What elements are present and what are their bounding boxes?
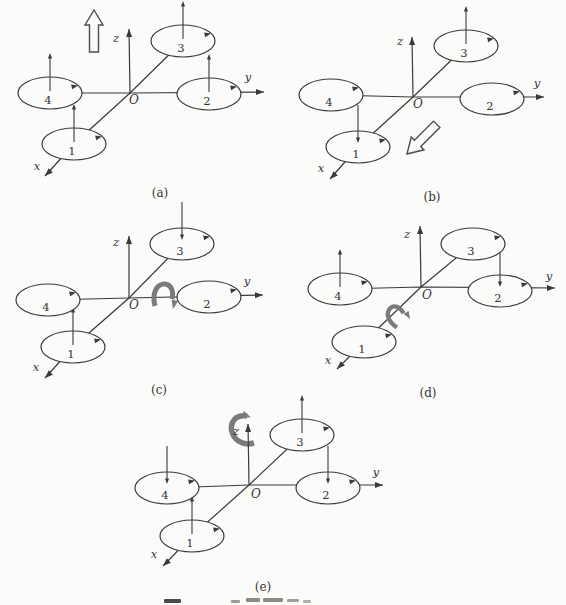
rotor-2-number: 2 [203,94,210,108]
origin-label: O [422,288,432,302]
rotor-2-number: 2 [494,291,501,305]
cropped-figure-caption-remnant [164,598,311,603]
origin-label: O [129,93,139,107]
origin-label: O [251,487,261,501]
z-axis-line [412,37,413,97]
z-axis-arrowhead [409,37,415,45]
caption-remnant-mark [246,598,260,602]
panel-caption-e: (e) [255,580,271,594]
rotor-4-number: 4 [42,300,49,314]
y-axis-arrowhead [536,94,544,100]
rotor-2-number: 2 [322,488,329,502]
rotor-1-number: 1 [186,536,193,550]
rotor-2-number: 2 [203,297,210,311]
rotor-1-number: 1 [67,347,74,361]
y-axis-arrowhead [255,292,263,298]
panel-a: 1234zyxO(a) [18,1,264,200]
panel-caption-b: (b) [423,190,440,204]
z-axis-label: z [232,424,240,438]
panel-caption-d: (d) [419,386,436,400]
z-axis-arrowhead [126,29,132,37]
z-axis-arrowhead [126,236,132,244]
rotor-2-number: 2 [486,99,493,113]
rotor-1-number: 1 [352,147,359,161]
quadrotor-motion-principle-figure: 1234zyxO(a)1234zyxO(b)1234zyxO(c)1234zyx… [0,0,566,605]
rotor-1-number: 1 [68,144,75,158]
z-axis-label: z [403,227,411,241]
textbook-figure-page: 1234zyxO(a)1234zyxO(b)1234zyxO(c)1234zyx… [0,0,566,605]
y-axis-label: y [533,76,541,90]
z-axis-arrowhead [417,226,423,234]
panel-caption-c: (c) [151,383,167,397]
y-axis-label: y [243,274,251,288]
forward-translation-arrow [401,118,443,160]
yaw-rotation-arrowhead [241,411,252,421]
z-axis-line [248,424,249,485]
caption-remnant-mark [303,600,311,603]
z-axis-label: z [396,34,404,48]
z-axis-line [420,226,421,287]
x-axis-label: x [318,161,325,175]
rotor-1-number: 1 [358,342,365,356]
rotor-4-number: 4 [325,95,332,109]
y-axis-arrowhead [256,89,264,95]
y-axis-label: y [244,70,252,84]
z-axis-arrowhead [245,424,251,432]
y-axis-label: y [545,269,553,283]
x-axis-label: x [151,547,158,561]
panel-caption-a: (a) [152,186,169,200]
panel-e: 1234zyxO(e) [135,395,383,594]
origin-label: O [413,97,423,111]
panel-b: 1234zyxO(b) [299,6,544,204]
z-axis-label: z [112,235,120,249]
thrust-arrowhead [338,249,342,255]
x-axis-arrowhead [328,171,338,181]
rotor-3-number: 3 [176,244,183,258]
thrust-arrowhead [300,395,304,401]
x-axis-label: x [325,353,332,367]
rotor-3-number: 3 [467,244,474,258]
caption-remnant-mark [231,600,240,603]
rotor-3-number: 3 [177,41,184,55]
rotor-4-number: 4 [44,93,51,107]
thrust-arrowhead [207,54,211,60]
panel-d: 1234zyxO(d) [308,226,555,400]
rotor-4-number: 4 [161,488,168,502]
rotor-3-number: 3 [460,46,467,60]
caption-remnant-mark [263,598,283,602]
thrust-arrowhead [48,53,52,59]
z-axis-line [129,29,130,93]
x-axis-label: x [33,360,40,374]
x-axis-label: x [34,159,41,173]
ascend-direction-arrow [85,10,103,52]
y-axis-label: y [372,465,380,479]
z-axis-label: z [112,31,120,45]
rotor-3-number: 3 [296,435,303,449]
rotor-4-number: 4 [334,289,341,303]
roll-rotation-arrow [384,300,414,330]
panel-c: 1234zyxO(c) [16,202,263,397]
pitch-rotation-arrowhead [170,299,179,309]
origin-label: O [129,298,139,312]
thrust-arrowhead [181,1,185,7]
caption-remnant-mark [287,599,299,602]
y-axis-arrowhead [375,482,383,488]
caption-remnant-mark [164,599,181,603]
y-axis-arrowhead [547,285,555,291]
thrust-arrowhead [464,6,468,12]
